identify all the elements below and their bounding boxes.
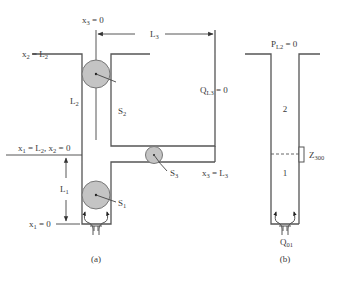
label-x3-L3: x3 = L3 (202, 168, 228, 179)
label-Q01: Q01 (280, 237, 293, 248)
label-L3: L3 (150, 29, 159, 40)
label-S1: S1 (118, 198, 126, 209)
tube-a-left-wall (32, 54, 215, 224)
panel-a: x3 = 0 L3 x2 = L2 L2 S2 QL3 = 0 x1 = L2,… (6, 15, 228, 264)
label-zone-1: 1 (283, 168, 288, 178)
caption-b: (b) (280, 254, 291, 264)
label-Z300: Z300 (309, 150, 324, 161)
label-QL3: QL3 = 0 (200, 85, 228, 96)
label-x2-L2: x2 = L2 (22, 49, 48, 60)
label-PL2: PL2 = 0 (271, 39, 298, 50)
label-L2: L2 (70, 96, 79, 107)
label-x3-zero: x3 = 0 (82, 15, 104, 26)
panel-b: PL2 = 0 2 1 Z300 Q01 (b) (245, 39, 324, 264)
Z300-element (299, 147, 304, 162)
tube-network-diagram: x3 = 0 L3 x2 = L2 L2 S2 QL3 = 0 x1 = L2,… (0, 0, 344, 283)
label-x1-zero: x1 = 0 (29, 219, 51, 230)
label-S3: S3 (170, 168, 178, 179)
caption-a: (a) (91, 254, 101, 264)
label-L1: L1 (60, 184, 69, 195)
label-x1-L2-x2-0: x1 = L2, x2 = 0 (18, 143, 71, 154)
label-zone-2: 2 (283, 104, 288, 114)
tube-b-left-wall (245, 54, 299, 224)
tube-b-right-wall (299, 54, 320, 224)
label-S2: S2 (118, 106, 126, 117)
